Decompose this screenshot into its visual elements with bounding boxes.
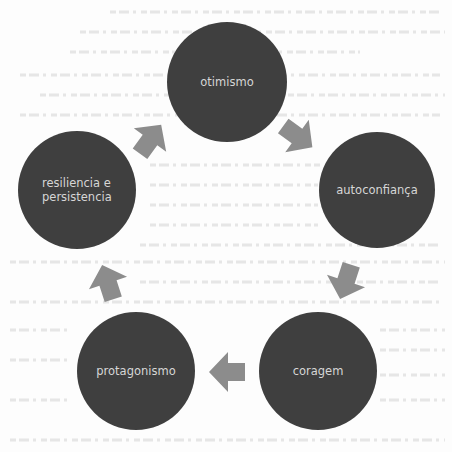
arrow-up-icon — [83, 259, 132, 306]
node-resiliencia-e-persistencia: resiliencia epersistencia — [18, 131, 136, 249]
node-autoconfianca: autoconfiança — [319, 132, 435, 248]
node-label: coragem — [293, 364, 344, 378]
arrow-up-right-icon — [124, 113, 178, 166]
arrow-down-right-icon — [271, 110, 324, 164]
arrow-left-icon — [209, 352, 245, 392]
node-label: protagonismo — [96, 364, 175, 378]
node-label: persistencia — [42, 190, 112, 204]
node-label: autoconfiança — [336, 183, 417, 197]
cycle-diagram-canvas: otimismoautoconfiançacoragemprotagonismo… — [0, 0, 452, 452]
node-coragem: coragem — [259, 312, 377, 430]
cycle-diagram: otimismoautoconfiançacoragemprotagonismo… — [0, 0, 452, 452]
node-label: resiliencia e — [42, 176, 111, 190]
node-otimismo: otimismo — [167, 22, 287, 142]
node-label: otimismo — [200, 75, 253, 89]
node-protagonismo: protagonismo — [77, 312, 195, 430]
